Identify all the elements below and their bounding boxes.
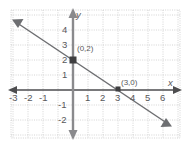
y-tick-1: 1: [62, 70, 67, 79]
point-label-y-intercept: (0,2): [77, 44, 93, 53]
point-label-x-intercept: (3,0): [121, 78, 137, 87]
x-tick-5: 5: [145, 93, 150, 102]
y-axis-label: y: [76, 10, 81, 19]
y-tick-neg2: -2: [58, 115, 66, 124]
x-tick-1: 1: [85, 93, 90, 102]
x-tick-2: 2: [100, 93, 105, 102]
y-tick-neg1: -1: [58, 100, 66, 109]
x-tick-neg3: -3: [9, 93, 17, 102]
x-tick-neg2: -2: [24, 93, 32, 102]
x-axis: [8, 86, 182, 94]
x-tick-3: 3: [115, 93, 120, 102]
y-tick-4: 4: [62, 25, 67, 34]
x-tick-4: 4: [130, 93, 135, 102]
x-axis-label: x: [168, 78, 173, 87]
point-3-0: [116, 87, 121, 92]
coordinate-plane-svg: [0, 0, 190, 151]
x-tick-neg1: -1: [39, 93, 47, 102]
y-tick-3: 3: [62, 40, 67, 49]
y-tick-2: 2: [62, 55, 67, 64]
point-0-2: [70, 57, 77, 64]
x-tick-6: 6: [160, 93, 165, 102]
grid-lines: [11, 10, 180, 138]
graph-figure: y x 4 3 2 1 -1 -2 -3 -2 -1 1 2 3 4 5 6 (…: [0, 0, 190, 151]
grid-frame: [11, 10, 180, 138]
